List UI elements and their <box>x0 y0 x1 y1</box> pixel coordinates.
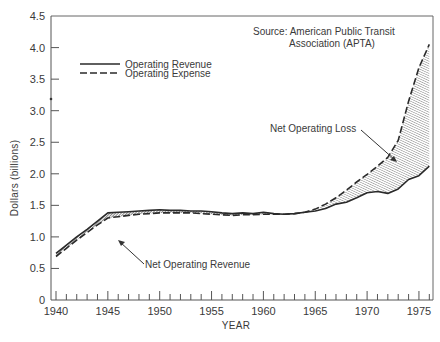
y-tick-label: 4.5 <box>30 10 45 22</box>
annotation-net-loss: Net Operating Loss <box>270 123 397 162</box>
y-axis-title: Dollars (billions) <box>9 140 20 217</box>
x-tick-label: 1950 <box>147 305 171 317</box>
source-note-line2: Association (APTA) <box>289 38 375 49</box>
axis-mark <box>50 98 53 101</box>
x-axis: 19401945195019551960196519701975 <box>44 291 431 317</box>
operating-expense-line <box>56 44 429 256</box>
annotation-net-revenue-label: Net Operating Revenue <box>145 259 251 270</box>
series-lines <box>56 44 429 256</box>
y-tick-label: 3.5 <box>30 73 45 85</box>
y-tick-label: 4.0 <box>30 42 45 54</box>
y-tick-label: 1.5 <box>30 199 45 211</box>
y-axis: 00.51.01.52.02.53.03.54.04.5 <box>30 10 59 306</box>
y-tick-label: 3.0 <box>30 105 45 117</box>
y-tick-label: 1.0 <box>30 231 45 243</box>
x-tick-label: 1975 <box>407 305 431 317</box>
x-tick-label: 1965 <box>303 305 327 317</box>
y-tick-label: 2.0 <box>30 168 45 180</box>
x-tick-label: 1960 <box>251 305 275 317</box>
y-tick-label: 0.5 <box>30 262 45 274</box>
legend-expense-label: Operating Expense <box>125 68 211 79</box>
annotation-net-loss-label: Net Operating Loss <box>270 123 356 134</box>
x-tick-label: 1970 <box>355 305 379 317</box>
chart: 00.51.01.52.02.53.03.54.04.5 19401945195… <box>0 0 440 342</box>
x-tick-label: 1955 <box>199 305 223 317</box>
annotation-arrow <box>361 130 395 160</box>
annotation-net-revenue: Net Operating Revenue <box>118 240 251 270</box>
legend: Operating Revenue Operating Expense <box>80 59 212 79</box>
plot-frame <box>51 16 433 300</box>
annotation-arrow <box>120 242 144 264</box>
net-operating-revenue-area <box>56 210 295 257</box>
source-note-line1: Source: American Public Transit <box>253 26 395 37</box>
x-tick-label: 1940 <box>44 305 68 317</box>
x-tick-label: 1945 <box>96 305 120 317</box>
x-axis-title: YEAR <box>222 320 250 331</box>
y-tick-label: 2.5 <box>30 136 45 148</box>
net-areas <box>56 44 429 256</box>
